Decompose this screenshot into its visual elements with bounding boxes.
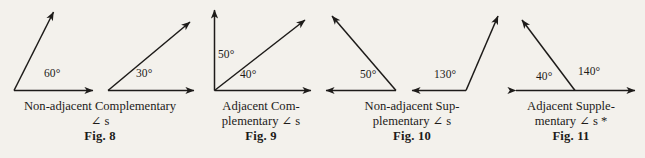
caption-line-1: Adjacent Com- <box>196 99 326 114</box>
fig-8-diagram <box>14 12 194 91</box>
caption-fig-11: Adjacent Supple- mentary ∠ s * Fig. 11 <box>497 99 645 145</box>
caption-line-1: Adjacent Supple- <box>497 99 645 114</box>
fig-11-diagram <box>516 20 635 91</box>
caption-fig-10: Non-adjacent Sup- plementary ∠ s Fig. 10 <box>333 99 491 145</box>
figure-number: Fig. 8 <box>0 129 200 144</box>
angle-label-50-fig10: 50° <box>360 69 376 81</box>
ray-slanted-30 <box>108 22 190 91</box>
figure-number: Fig. 10 <box>333 129 491 144</box>
fig-8-angle-30 <box>108 22 194 91</box>
angle-label-140-fig11: 140° <box>578 66 600 78</box>
angle-label-40-fig9: 40° <box>240 69 256 81</box>
caption-line-2: plementary ∠ s <box>333 114 491 129</box>
caption-line-2: plementary ∠ s <box>196 114 326 129</box>
caption-line-2: mentary ∠ s * <box>497 114 645 129</box>
fig-10-diagram <box>326 16 498 91</box>
caption-fig-9: Adjacent Com- plementary ∠ s Fig. 9 <box>196 99 326 145</box>
angle-label-30: 30° <box>136 68 152 80</box>
caption-line-1: Non-adjacent Complementary <box>0 99 200 114</box>
angle-label-50-fig9: 50° <box>218 49 234 61</box>
angle-label-60: 60° <box>44 68 60 80</box>
figure-number: Fig. 9 <box>196 129 326 144</box>
caption-line-2: ∠ s <box>0 114 200 129</box>
geometry-figure-plate: 60° 30° 50° 40° 50° 130° 40° 140° Non-ad… <box>0 0 645 158</box>
figure-number: Fig. 11 <box>497 129 645 144</box>
angle-label-40-fig11: 40° <box>536 71 552 83</box>
caption-line-1: Non-adjacent Sup- <box>333 99 491 114</box>
caption-fig-8: Non-adjacent Complementary ∠ s Fig. 8 <box>0 99 200 145</box>
angle-label-130-fig10: 130° <box>434 69 456 81</box>
ray-slanted-130 <box>466 16 498 91</box>
